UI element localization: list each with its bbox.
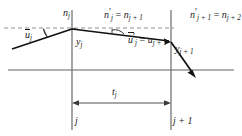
label-surface-index-j: j <box>75 116 78 126</box>
overbar-group: u′j <box>128 33 137 47</box>
label-surface-index-j-plus-1: j + 1 <box>173 116 193 126</box>
thickness-arrow-left <box>72 100 79 106</box>
optical-ray-trace-figure: nj n′j = nj + 1 n′j + 1 = nj + 2 uj u′j … <box>0 0 242 136</box>
label-angle-u-j: uj <box>25 30 32 42</box>
label-thickness-t-j: tj <box>112 87 117 99</box>
label-refractive-index-n-prime-j-plus-1-equality: n′j + 1 = nj + 2 <box>190 8 241 22</box>
thickness-arrow-right <box>164 100 171 106</box>
label-ray-height-y-j-plus-1: yj + 1 <box>175 44 194 56</box>
label-refractive-index-n-prime-j-equality: n′j = nj + 1 <box>104 8 143 22</box>
exit-ray-arrowhead <box>188 70 197 78</box>
incident-ray-segment <box>12 29 72 49</box>
label-ray-height-y-j: yj <box>76 37 82 49</box>
label-refractive-index-n-j: nj <box>63 8 70 20</box>
label-angle-u-prime-j-equality: u′j = uj + 1 <box>128 33 167 47</box>
overbar-group: uj <box>25 30 32 42</box>
